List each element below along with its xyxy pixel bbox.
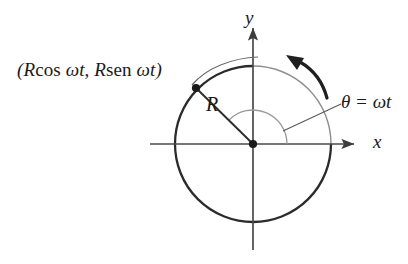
origin-point bbox=[249, 140, 257, 148]
coordinate-comma: , bbox=[85, 59, 95, 80]
radius-line bbox=[196, 88, 253, 144]
rotation-arrow-head bbox=[286, 55, 304, 70]
theta-arc bbox=[229, 110, 287, 144]
coordinate-sen: sen bbox=[106, 59, 132, 80]
coordinate-omega-second: ω bbox=[136, 59, 150, 80]
rotation-arrow-shaft bbox=[300, 62, 327, 98]
y-axis-label: y bbox=[245, 8, 253, 27]
coordinate-label: (Rcos ωt, Rsen ωt) bbox=[17, 60, 162, 79]
theta-t: t bbox=[386, 91, 391, 112]
radius-label: R bbox=[206, 94, 218, 114]
diagram-svg bbox=[0, 0, 408, 264]
theta-symbol: θ bbox=[341, 91, 350, 112]
theta-label: θ = ωt bbox=[341, 92, 391, 111]
coordinate-omega-first: ω bbox=[66, 59, 80, 80]
coordinate-cos: cos bbox=[35, 59, 61, 80]
figure-canvas: (Rcos ωt, Rsen ωt) θ = ωt R y x bbox=[0, 0, 408, 264]
theta-omega: ω bbox=[373, 91, 386, 112]
particle-point bbox=[192, 84, 200, 92]
coordinate-close-paren: ) bbox=[155, 59, 161, 80]
coordinate-r-first: R bbox=[23, 59, 35, 80]
theta-equals: = bbox=[350, 91, 372, 112]
theta-leader-line bbox=[283, 104, 341, 131]
coordinate-r-second: R bbox=[94, 59, 106, 80]
x-axis-label: x bbox=[373, 132, 381, 151]
